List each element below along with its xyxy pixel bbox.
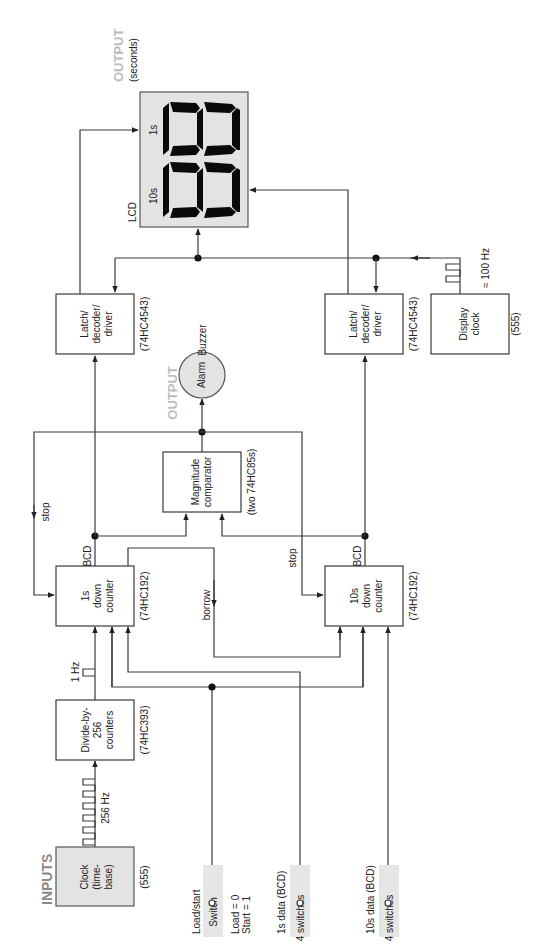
clock-label-3: base) <box>103 864 114 889</box>
latch-10s-label-1: Latch/ <box>348 310 359 337</box>
clock-freq-label: 256 Hz <box>100 792 111 824</box>
alarm-block: Alarm Buzzer <box>179 324 225 398</box>
wire-latch10s-to-lcd <box>250 190 348 294</box>
lcd-display: LCD 10s 1s <box>127 92 248 227</box>
counter-10s-label-2: down <box>361 584 372 608</box>
latch-10s-part: (74HC4543) <box>408 297 419 351</box>
display-freq-label: ≈ 100 Hz <box>480 248 491 288</box>
wire-10s-bcd-to-comparator <box>222 514 365 536</box>
clock-label-1: Clock <box>79 864 90 890</box>
counter-10s-part: (74HC192) <box>408 572 419 621</box>
output-display-heading: OUTPUT <box>111 29 126 83</box>
load-start-title: Load/start <box>191 889 202 934</box>
buzzer-label: Buzzer <box>197 324 208 356</box>
stop-1s-label: stop <box>40 502 51 521</box>
load-note: Load = 0 <box>230 894 241 934</box>
counter-1s-label-3: counter <box>104 579 115 613</box>
output-display-subheading: (seconds) <box>128 38 139 82</box>
latch-1s-part: (74HC4543) <box>139 297 150 351</box>
latch-10s-label-3: driver <box>372 311 383 337</box>
latch-1s-block: Latch/ decoder/ driver (74HC4543) <box>56 294 150 354</box>
latch-10s-block: Latch/ decoder/ driver (74HC4543) <box>325 294 419 354</box>
data-1s-title: 1s data (BCD) <box>276 871 287 934</box>
clock-part: (555) <box>139 865 150 888</box>
latch-1s-label-1: Latch/ <box>79 310 90 337</box>
comparator-block: Magnitude comparator (two 74HC85s) <box>163 449 257 516</box>
switch-terminal[interactable] <box>209 900 215 906</box>
latch-1s-label-2: decoder/ <box>91 304 102 343</box>
latch-1s-label-3: driver <box>103 311 114 337</box>
data-1s-terminal[interactable] <box>297 900 303 906</box>
lcd-10s-label: 10s <box>148 188 159 204</box>
borrow-label: borrow <box>201 589 212 620</box>
data-10s-switches[interactable]: 10s data (BCD) 4 switches <box>365 865 399 941</box>
divider-out-label: 1 Hz <box>70 662 81 683</box>
junction-load <box>208 683 215 690</box>
display-clock-part: (555) <box>510 312 521 335</box>
lcd-1s-label: 1s <box>148 125 159 136</box>
wire-1s-bcd-to-comparator <box>95 514 186 536</box>
bcd-10s-label: BCD <box>352 545 363 566</box>
pulse-100hz-icon <box>446 264 460 282</box>
divider-block: Divide-by- 256 counters (74HC393) <box>56 700 150 760</box>
comparator-label-1: Magnitude <box>190 458 201 505</box>
display-clock-block: Display clock (555) <box>431 294 521 354</box>
counter-10s-label-3: counter <box>373 579 384 613</box>
counter-1s-label-2: down <box>92 584 103 608</box>
counter-10s-label-1: 10s <box>349 588 360 604</box>
stop-10s-label: stop <box>287 548 298 567</box>
latch-10s-label-2: decoder/ <box>360 304 371 343</box>
counter-1s-block: 1s down counter (74HC192) <box>56 566 150 626</box>
pulse-1hz-icon <box>83 669 95 676</box>
divider-label-2: 256 <box>92 721 103 738</box>
output-alarm-heading: OUTPUT <box>165 366 180 420</box>
lcd-label: LCD <box>127 202 138 222</box>
divider-part: (74HC393) <box>139 706 150 755</box>
divider-label-3: counters <box>104 711 115 749</box>
bcd-1s-label: BCD <box>82 545 93 566</box>
clock-block: Clock (time- base) (555) <box>56 847 150 906</box>
clock-label-2: (time- <box>91 864 102 890</box>
alarm-label: Alarm <box>196 362 207 388</box>
wire-borrow <box>128 548 340 657</box>
data-10s-terminal[interactable] <box>385 900 391 906</box>
counter-1s-label-1: 1s <box>80 591 91 602</box>
timer-block-diagram: Clock (time- base) (555) INPUTS Divide-b… <box>0 0 535 947</box>
load-start-switch[interactable]: Load/start Switch Load = 0 Start = 1 <box>191 865 252 937</box>
display-clock-label-1: Display <box>458 308 469 341</box>
pulse-train-256hz-icon <box>83 779 95 845</box>
start-note: Start = 1 <box>241 895 252 934</box>
data-1s-switches[interactable]: 1s data (BCD) 4 switches <box>276 865 310 941</box>
inputs-heading: INPUTS <box>39 854 55 905</box>
data-10s-title: 10s data (BCD) <box>365 865 376 934</box>
comparator-part: (two 74HC85s) <box>246 449 257 516</box>
divider-label-1: Divide-by- <box>80 707 91 752</box>
display-clock-label-2: clock <box>470 312 481 336</box>
wire-1s-data <box>128 627 300 900</box>
comparator-label-2: comparator <box>202 456 213 507</box>
counter-1s-part: (74HC192) <box>139 572 150 621</box>
counter-10s-block: 10s down counter (74HC192) <box>325 566 419 626</box>
